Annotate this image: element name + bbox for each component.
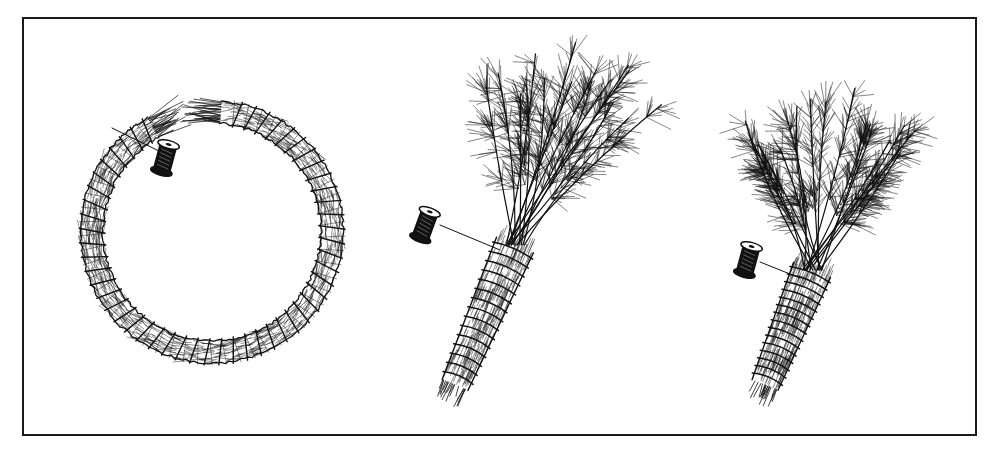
illustration-canvas bbox=[0, 0, 994, 450]
wreath-ring-drawing bbox=[78, 95, 346, 365]
pine-bunch-1-drawing bbox=[438, 35, 680, 406]
thread-spools bbox=[150, 138, 764, 280]
thread-spool-icon bbox=[733, 240, 764, 280]
thread-spool-icon bbox=[150, 138, 181, 178]
thread-spool-icon bbox=[409, 204, 442, 245]
